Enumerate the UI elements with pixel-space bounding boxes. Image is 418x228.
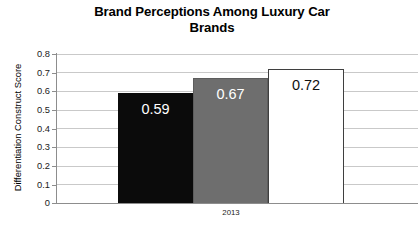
y-tick-label-0.2: 0.2 — [4, 161, 50, 171]
y-tick-label-0.4: 0.4 — [4, 124, 50, 134]
y-axis-tick-labels: 0.8 0.7 0.6 0.5 0.4 0.3 0.2 0.1 0 — [0, 0, 50, 228]
x-tick-label-2013: 2013 — [118, 208, 344, 217]
bar-chart: Brand Perceptions Among Luxury Car Brand… — [0, 0, 418, 228]
y-tick-label-0.1: 0.1 — [4, 180, 50, 190]
y-tick-label-0.8: 0.8 — [4, 49, 50, 59]
y-tick-label-0.7: 0.7 — [4, 68, 50, 78]
x-axis-category-labels: 2013 — [118, 0, 344, 228]
y-tick-label-0.5: 0.5 — [4, 105, 50, 115]
y-axis-line — [56, 53, 57, 204]
y-tick-label-0.3: 0.3 — [4, 142, 50, 152]
y-tick-label-0: 0 — [4, 198, 50, 208]
y-tick-label-0.6: 0.6 — [4, 86, 50, 96]
